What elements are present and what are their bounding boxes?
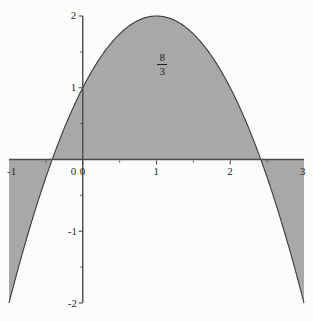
- x-tick-label: 0: [80, 166, 86, 177]
- fraction-eight-thirds: 8 3: [157, 52, 167, 77]
- area-value-annotation: 8 3: [157, 52, 167, 77]
- fraction-numerator: 8: [157, 52, 167, 63]
- x-tick-label: 1: [154, 166, 160, 177]
- x-tick-label: 3: [300, 166, 306, 177]
- y-tick-label: -2: [68, 298, 77, 309]
- x-tick-label: 2: [227, 166, 233, 177]
- fraction-denominator: 3: [157, 66, 167, 77]
- y-tick-label: 0: [71, 166, 77, 177]
- parabola-area-chart: [0, 0, 313, 321]
- plot-canvas: -10123 -2-1012 8 3: [0, 0, 313, 321]
- x-tick-label: -1: [7, 166, 16, 177]
- y-tick-label: -1: [68, 226, 77, 237]
- shaded-area-below-axis-right: [261, 160, 304, 304]
- shaded-area-below-axis-left: [9, 160, 52, 304]
- y-tick-label: 2: [71, 10, 77, 21]
- x-axis-tick-marks: [46, 161, 267, 165]
- y-tick-label: 1: [71, 82, 77, 93]
- shaded-area-above-axis: [52, 16, 261, 160]
